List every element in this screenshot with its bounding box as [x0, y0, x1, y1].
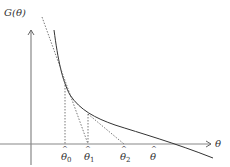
tick-label-theta-hat: θ	[150, 152, 156, 162]
tick-label-theta2: θ2	[120, 152, 131, 164]
diagram-graphics	[0, 0, 230, 167]
y-axis-label: G(θ)	[4, 8, 26, 18]
tick-label-theta1: θ1	[84, 152, 95, 164]
g-curve	[54, 30, 213, 158]
tangent-line-1	[88, 114, 124, 144]
newton-method-diagram: G(θ) θ θ0 θ1 θ2 θ	[0, 0, 230, 167]
x-axis-label: θ	[215, 139, 221, 149]
tick-label-theta0: θ0	[61, 152, 72, 164]
